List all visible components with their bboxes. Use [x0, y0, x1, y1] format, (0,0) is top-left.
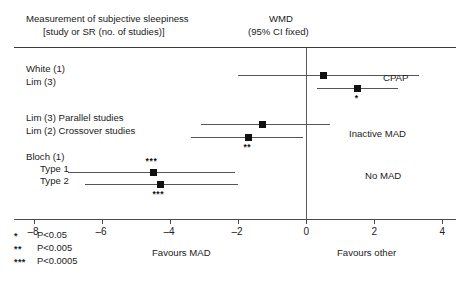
header-rule	[14, 47, 456, 48]
significance-stars: *	[355, 94, 359, 103]
study-label: Type 2	[40, 176, 69, 186]
study-label: Lim (2) Crossover studies	[26, 126, 135, 136]
effect-estimate-marker	[150, 169, 157, 176]
legend-text: P<0.05	[37, 230, 67, 240]
x-axis-tick	[34, 219, 35, 224]
x-axis-tick-label: –4	[163, 227, 174, 238]
effect-estimate-marker	[259, 121, 266, 128]
favours-right-label: Favours other	[337, 248, 396, 258]
legend-marker: ***	[14, 258, 26, 267]
x-axis-tick	[102, 219, 103, 224]
legend-marker: **	[14, 245, 22, 254]
effect-estimate-marker	[320, 72, 327, 79]
x-axis-tick	[442, 219, 443, 224]
forest-plot-figure: Measurement of subjective sleepiness [st…	[0, 0, 470, 282]
x-axis-tick	[374, 219, 375, 224]
x-axis-tick-label: –2	[231, 227, 242, 238]
x-axis-tick-label: 4	[439, 227, 445, 238]
study-label: White (1)	[26, 64, 65, 74]
x-axis-tick-label: 2	[371, 227, 377, 238]
header-left-line2: [study or SR (no. of studies)]	[43, 27, 165, 37]
x-axis-line	[14, 219, 456, 220]
study-label: Lim (3)	[26, 77, 56, 87]
x-axis-tick	[170, 219, 171, 224]
study-label: Lim (3) Parallel studies	[26, 113, 124, 123]
group-label-no-mad: No MAD	[365, 171, 401, 181]
legend-marker: *	[14, 232, 18, 241]
study-label: Bloch (1)	[26, 152, 64, 162]
significance-stars: ***	[146, 157, 158, 166]
legend-text: P<0.005	[37, 243, 72, 253]
x-axis-tick	[306, 219, 307, 224]
significance-stars: **	[243, 143, 251, 152]
group-label-cpap: CPAP	[383, 73, 408, 83]
favours-left-label: Favours MAD	[152, 248, 211, 258]
header-right-line2: (95% CI fixed)	[248, 27, 309, 37]
legend-text: P<0.0005	[37, 256, 77, 266]
significance-stars: ***	[152, 190, 164, 199]
null-effect-line	[306, 48, 307, 219]
x-axis-tick	[238, 219, 239, 224]
x-axis-tick-label: 0	[303, 227, 309, 238]
header-left-line1: Measurement of subjective sleepiness	[26, 14, 189, 24]
study-label: Type 1	[40, 164, 69, 174]
effect-estimate-marker	[245, 134, 252, 141]
group-label-inactive-mad: Inactive MAD	[349, 129, 406, 139]
effect-estimate-marker	[354, 85, 361, 92]
x-axis-tick-label: –6	[95, 227, 106, 238]
header-right-line1: WMD	[269, 14, 293, 24]
effect-estimate-marker	[157, 181, 164, 188]
